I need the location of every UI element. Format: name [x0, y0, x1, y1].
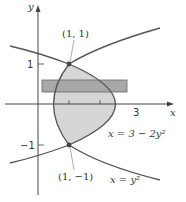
tick-label-y-neg1: −1 [20, 140, 35, 151]
x-axis-arrow-icon [167, 102, 174, 107]
leader-1-neg1 [70, 147, 74, 170]
point-label-1-neg1: (1, −1) [58, 171, 93, 182]
leader-1-1 [70, 40, 74, 62]
point-1-1 [67, 62, 72, 67]
tick-label-y-1: 1 [27, 59, 33, 70]
curve-x-eq-3-minus-2y2-lower-ext [10, 145, 69, 163]
point-1-neg1 [67, 143, 72, 148]
tick-label-x-3: 3 [133, 107, 139, 118]
region-diagram: y x 1 −1 3 (1, 1) (1, −1) x = 3 − 2y² x … [0, 0, 186, 202]
y-axis-label: y [27, 1, 34, 12]
curve-label-3-minus-2y2: x = 3 − 2y² [108, 128, 166, 139]
x-axis-label: x [170, 107, 176, 118]
point-label-1-1: (1, 1) [62, 28, 89, 39]
curve-x-eq-3-minus-2y2-upper-ext [10, 46, 69, 64]
curve-label-y2: x = y² [110, 174, 140, 185]
y-axis-arrow-icon [36, 5, 41, 12]
